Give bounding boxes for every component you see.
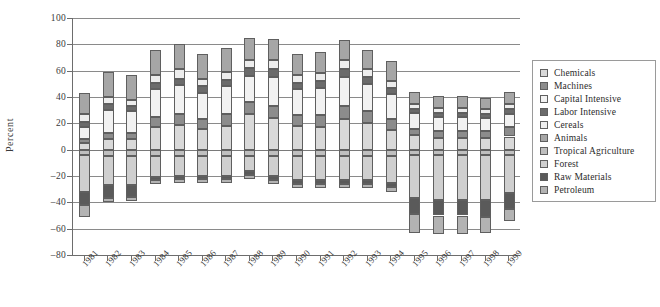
bar-group-1998[interactable] <box>480 18 491 255</box>
bar-group-1989[interactable] <box>268 18 279 255</box>
bar-segment <box>197 54 208 79</box>
legend-swatch-icon <box>540 82 548 90</box>
bar-group-1990[interactable] <box>292 18 303 255</box>
bar-group-1987[interactable] <box>221 18 232 255</box>
bar-segment <box>268 77 279 106</box>
legend-item-labor-intensive[interactable]: Labor Intensive <box>540 105 649 118</box>
bar-segment <box>103 110 114 132</box>
y-axis-spine <box>72 18 73 255</box>
bar-group-1996[interactable] <box>433 18 444 255</box>
bar-group-1983[interactable] <box>126 18 137 255</box>
y-tick-label: –60 <box>51 224 66 234</box>
bar-segment <box>386 130 397 150</box>
bar-segment <box>362 50 373 70</box>
bar-group-1981[interactable] <box>79 18 90 255</box>
bar-group-1997[interactable] <box>457 18 468 255</box>
bar-segment <box>150 156 161 177</box>
legend-item-tropical-agriculture[interactable]: Tropical Agriculture <box>540 144 649 157</box>
bar-group-1984[interactable] <box>150 18 161 255</box>
legend-item-cereals[interactable]: Cereals <box>540 118 649 131</box>
bar-segment <box>221 80 232 87</box>
bar-segment <box>150 50 161 75</box>
bar-segment <box>221 156 232 176</box>
y-tick-mark--80 <box>67 255 72 256</box>
legend-item-chemicals[interactable]: Chemicals <box>540 66 649 79</box>
bar-segment <box>386 187 397 192</box>
y-axis-title: Percent <box>4 118 15 152</box>
bar-segment <box>174 79 185 86</box>
bar-segment <box>457 131 468 138</box>
bar-segment <box>504 104 515 109</box>
bar-segment <box>433 96 444 108</box>
bar-segment <box>150 89 161 117</box>
legend-item-label: Cereals <box>554 120 584 130</box>
bar-segment <box>480 155 491 200</box>
legend-item-capital-intensive[interactable]: Capital Intensive <box>540 92 649 105</box>
y-tick-mark-60 <box>67 71 72 72</box>
bar-segment <box>150 150 161 157</box>
bar-segment <box>268 60 279 69</box>
bar-segment <box>480 131 491 138</box>
legend-item-petroleum[interactable]: Petroleum <box>540 183 649 196</box>
legend-item-animals[interactable]: Animals <box>540 131 649 144</box>
bar-segment <box>174 114 185 125</box>
bar-segment <box>221 114 232 126</box>
bar-segment <box>268 69 279 77</box>
bar-group-1988[interactable] <box>244 18 255 255</box>
bar-group-1991[interactable] <box>315 18 326 255</box>
bar-segment <box>504 92 515 104</box>
bar-segment <box>315 81 326 88</box>
bar-segment <box>244 68 255 76</box>
legend-item-machines[interactable]: Machines <box>540 79 649 92</box>
y-tick-mark--20 <box>67 176 72 177</box>
bar-segment <box>457 113 468 117</box>
bar-segment <box>457 155 468 200</box>
bar-segment <box>409 214 420 232</box>
bar-segment <box>268 106 279 118</box>
y-tick-mark-40 <box>67 97 72 98</box>
bar-group-1995[interactable] <box>409 18 420 255</box>
bar-segment <box>362 123 373 149</box>
bar-segment <box>409 135 420 149</box>
bar-group-1982[interactable] <box>103 18 114 255</box>
bar-segment <box>339 60 350 69</box>
bar-group-1993[interactable] <box>362 18 373 255</box>
legend-item-label: Raw Materials <box>554 172 612 182</box>
legend-item-raw-materials[interactable]: Raw Materials <box>540 170 649 183</box>
legend-swatch-icon <box>540 160 548 168</box>
bar-group-1986[interactable] <box>197 18 208 255</box>
bar-segment <box>409 109 420 113</box>
bar-segment <box>197 129 208 150</box>
bar-segment <box>174 44 185 69</box>
bar-segment <box>386 156 397 182</box>
legend-item-label: Tropical Agriculture <box>554 146 634 156</box>
bar-segment <box>457 108 468 113</box>
bar-segment <box>103 156 114 185</box>
bar-segment <box>292 83 303 90</box>
bar-segment <box>197 79 208 87</box>
bar-segment <box>386 119 397 130</box>
bar-segment <box>103 104 114 111</box>
bar-group-1994[interactable] <box>386 18 397 255</box>
bar-segment <box>268 180 279 184</box>
bar-segment <box>480 109 491 114</box>
bar-group-1985[interactable] <box>174 18 185 255</box>
legend-swatch-icon <box>540 186 548 194</box>
bar-group-1992[interactable] <box>339 18 350 255</box>
plot-area <box>72 18 520 255</box>
legend-item-label: Capital Intensive <box>554 94 621 104</box>
bar-segment <box>315 156 326 180</box>
bar-group-1999[interactable] <box>504 18 515 255</box>
bar-segment <box>480 118 491 131</box>
legend-item-forest[interactable]: Forest <box>540 157 649 170</box>
bar-segment <box>409 198 420 214</box>
bar-segment <box>150 117 161 128</box>
bar-segment <box>292 54 303 75</box>
bar-segment <box>126 197 137 201</box>
bar-segment <box>433 138 444 150</box>
bar-segment <box>221 150 232 157</box>
bar-segment <box>433 216 444 234</box>
bar-segment <box>197 150 208 157</box>
bar-segment <box>457 96 468 108</box>
bar-segment <box>244 60 255 68</box>
